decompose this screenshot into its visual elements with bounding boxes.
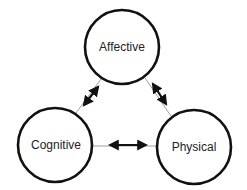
node-label-affective: Affective (99, 40, 145, 54)
triad-diagram: Affective Cognitive Physical (0, 0, 247, 190)
node-affective: Affective (85, 10, 159, 84)
arrow-affective-cognitive (84, 87, 98, 105)
node-label-physical: Physical (172, 140, 217, 154)
connector-affective-physical (145, 78, 171, 116)
node-physical: Physical (157, 110, 231, 184)
connector-affective-cognitive (76, 79, 101, 113)
node-cognitive: Cognitive (18, 108, 92, 182)
arrow-affective-physical (153, 84, 166, 104)
node-label-cognitive: Cognitive (31, 138, 81, 152)
